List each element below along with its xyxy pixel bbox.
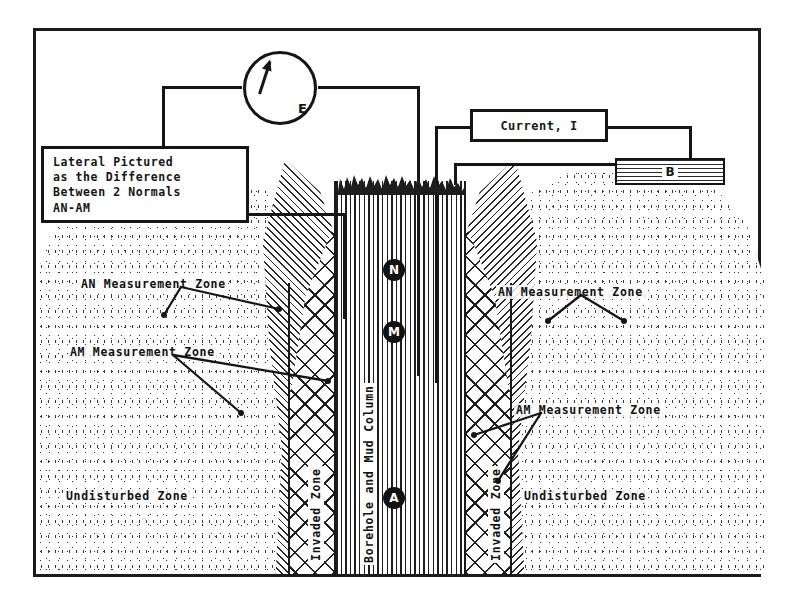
borehole-wall-right xyxy=(464,181,466,574)
borehole-mud-column xyxy=(336,181,464,574)
voltmeter-needle-icon xyxy=(258,61,271,94)
undisturbed-zone-label-right: Undisturbed Zone xyxy=(522,489,648,503)
am-right-text: AM Measurement Zone xyxy=(516,403,661,417)
an-measurement-zone-label-right: AN Measurement Zone xyxy=(496,285,645,299)
invaded-zone-left-outer-edge xyxy=(288,283,290,574)
invaded-zone-label-right: Invaded Zone xyxy=(488,466,504,563)
diagram-frame: E Current, I B Lateral Pictured as the D… xyxy=(33,28,761,577)
wire-voltmeter-left-top xyxy=(162,86,242,89)
wire-current-left-riser xyxy=(435,126,438,383)
diagram-canvas: E Current, I B Lateral Pictured as the D… xyxy=(0,0,794,614)
legend-line-2: as the Difference xyxy=(53,170,238,185)
an-right-text: AN Measurement Zone xyxy=(498,285,643,299)
undisturbed-zone-label-left: Undisturbed Zone xyxy=(64,489,190,503)
wire-to-electrode-n xyxy=(343,213,346,319)
invaded-zone-label-left: Invaded Zone xyxy=(308,466,324,563)
current-label-box: Current, I xyxy=(470,109,608,142)
am-measurement-zone-label-right: AM Measurement Zone xyxy=(514,403,663,417)
legend-line-4: AN-AM xyxy=(53,201,238,216)
undisturbed-right-text: Undisturbed Zone xyxy=(524,489,646,503)
an-left-text: AN Measurement Zone xyxy=(81,277,226,291)
electrode-m-label: M xyxy=(388,325,400,339)
wire-current-box-to-b xyxy=(606,126,692,129)
invaded-zone-right-outer-edge xyxy=(510,283,512,574)
electrode-n: N xyxy=(383,259,405,281)
electrode-a-label: A xyxy=(389,491,398,505)
invaded-left-text: Invaded Zone xyxy=(309,468,323,561)
electrode-m: M xyxy=(383,321,405,343)
legend-line-3: Between 2 Normals xyxy=(53,185,238,200)
electrode-b-block: B xyxy=(615,158,725,185)
electrode-n-label: N xyxy=(389,263,399,277)
borehole-top-edge xyxy=(328,169,474,195)
am-left-text: AM Measurement Zone xyxy=(70,345,215,359)
legend-box: Lateral Pictured as the Difference Betwe… xyxy=(41,146,249,223)
wire-to-electrode-m xyxy=(417,86,420,376)
an-measurement-zone-label-left: AN Measurement Zone xyxy=(79,277,228,291)
am-measurement-zone-label-left: AM Measurement Zone xyxy=(68,345,217,359)
wire-voltmeter-right-top xyxy=(318,86,420,89)
borehole-column-text: Borehole and Mud Column xyxy=(362,385,376,563)
invaded-right-text: Invaded Zone xyxy=(489,468,503,561)
electrode-a: A xyxy=(383,487,405,509)
legend-line-1: Lateral Pictured xyxy=(53,155,238,170)
voltmeter-label: E xyxy=(298,102,307,115)
voltmeter-icon: E xyxy=(243,51,317,125)
current-label-text: Current, I xyxy=(500,119,577,133)
undisturbed-left-text: Undisturbed Zone xyxy=(66,489,188,503)
electrode-b-label: B xyxy=(662,165,677,179)
borehole-wall-left xyxy=(334,181,336,574)
borehole-column-label: Borehole and Mud Column xyxy=(361,383,377,565)
